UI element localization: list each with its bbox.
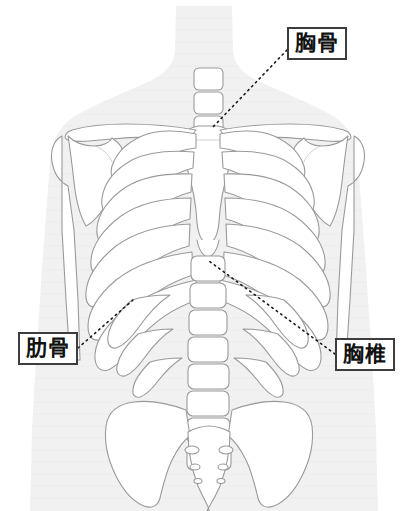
sacral-foramen [219, 446, 233, 454]
sacral-foramen [190, 464, 200, 470]
lumbar-vertebra [187, 391, 229, 416]
anatomy-illustration [0, 0, 408, 511]
thoracic-vertebra [190, 283, 226, 308]
label-thoracic-vertebrae[interactable]: 胸椎 [335, 338, 395, 371]
sacral-foramen [218, 464, 228, 470]
thoracic-vertebra [188, 337, 228, 362]
diagram-canvas: 胸骨 肋骨 胸椎 [0, 0, 408, 511]
sacral-foramen [194, 479, 202, 484]
sacral-foramen [185, 446, 199, 454]
label-sternum[interactable]: 胸骨 [287, 27, 347, 60]
label-ribs[interactable]: 肋骨 [18, 332, 78, 365]
sacral-foramen [217, 479, 225, 484]
thoracic-vertebra [189, 310, 227, 335]
lumbar-vertebra [188, 364, 229, 389]
